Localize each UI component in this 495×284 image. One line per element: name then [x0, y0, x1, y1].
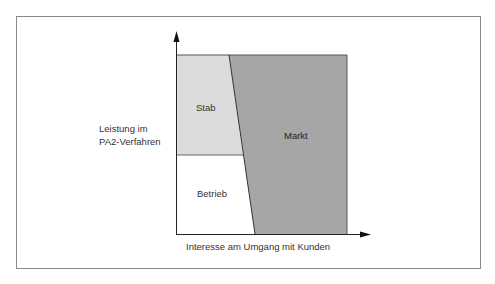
x-axis-label: Interesse am Umgang mit Kunden	[186, 240, 330, 253]
region-label-betrieb: Betrieb	[197, 188, 227, 199]
y-axis-label-line-1: Leistung im	[99, 122, 161, 135]
region-label-markt: Markt	[284, 130, 308, 141]
region-label-stab: Stab	[196, 102, 216, 113]
x-axis-arrow-icon	[360, 232, 371, 238]
y-axis-arrow-icon	[174, 31, 180, 42]
y-axis-label-line-2: PA2-Verfahren	[99, 135, 161, 148]
y-axis-label: Leistung im PA2-Verfahren	[99, 122, 161, 148]
